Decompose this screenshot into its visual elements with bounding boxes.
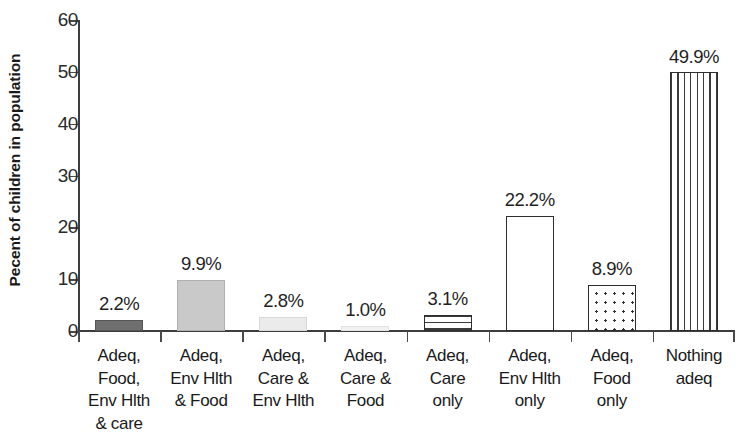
x-axis-label-line: Adeq, <box>242 345 324 368</box>
x-axis-label-nothing-adeq: Nothing adeq <box>653 345 735 390</box>
bar-value-label-8: 49.9% <box>669 46 719 68</box>
x-axis-label-line: Adeq, <box>571 345 653 368</box>
x-axis-label-line: Food, <box>78 368 160 391</box>
bar-slot-3: 2.8% <box>242 20 324 331</box>
x-tick-mark-5 <box>489 331 491 342</box>
x-axis-label-line: adeq <box>653 368 735 391</box>
bar-adeq-env-hlth-and-food[interactable] <box>177 280 225 331</box>
x-axis-label-line: Nothing <box>653 345 735 368</box>
x-axis-label-line: Care & <box>242 368 324 391</box>
bar-adeq-care-and-env-hlth[interactable] <box>259 317 307 332</box>
x-axis-label-adeq-care-only: Adeq, Care only <box>407 345 489 413</box>
y-tick-label-10: 10 <box>44 268 78 290</box>
bar-chart: Pecent of children in population 60 50 4… <box>0 0 740 443</box>
x-axis-label-line: & Food <box>160 390 242 413</box>
x-tick-mark-6 <box>571 331 573 342</box>
bar-value-label-2: 9.9% <box>181 253 221 275</box>
x-axis-label-adeq-care-and-food: Adeq, Care & Food <box>324 345 406 413</box>
x-tick-mark-3 <box>324 331 326 342</box>
x-axis-label-line: Food <box>324 390 406 413</box>
x-axis-label-line: Care & <box>324 368 406 391</box>
bar-slot-8: 49.9% <box>653 20 735 331</box>
y-tick-label-50: 50 <box>44 61 78 83</box>
y-axis-title: Pecent of children in population <box>0 0 30 340</box>
bar-slot-5: 3.1% <box>407 20 489 331</box>
bar-adeq-food-env-hlth-and-care[interactable] <box>95 320 143 331</box>
y-tick-label-20: 20 <box>44 216 78 238</box>
x-tick-mark-2 <box>242 331 244 342</box>
y-axis-title-text: Pecent of children in population <box>6 54 24 287</box>
bar-slot-1: 2.2% <box>78 20 160 331</box>
bar-adeq-care-only[interactable] <box>424 315 472 331</box>
bar-adeq-env-hlth-only[interactable] <box>506 216 554 331</box>
x-tick-mark-4 <box>407 331 409 342</box>
y-tick-label-0: 0 <box>44 320 78 342</box>
x-tick-mark-7 <box>653 331 655 342</box>
x-axis-ticks <box>78 331 735 343</box>
y-tick-label-60: 60 <box>44 9 78 31</box>
bar-value-label-1: 2.2% <box>99 293 139 315</box>
x-axis-label-line: Adeq, <box>78 345 160 368</box>
bar-value-label-5: 3.1% <box>427 288 467 310</box>
plot-area: 2.2% 9.9% 2.8% 1.0% 3.1% 22.2% 8.9% <box>78 20 735 331</box>
y-axis-ticks: 60 50 40 30 20 10 0 <box>30 0 78 443</box>
bar-slot-6: 22.2% <box>489 20 571 331</box>
x-axis-label-line: Env Hlth <box>78 390 160 413</box>
bar-adeq-food-only[interactable] <box>588 285 636 331</box>
x-axis-label-line: only <box>571 390 653 413</box>
x-axis-label-adeq-env-hlth-only: Adeq, Env Hlth only <box>489 345 571 413</box>
x-axis-label-line: only <box>489 390 571 413</box>
bar-value-label-7: 8.9% <box>592 258 632 280</box>
x-axis-label-line: Adeq, <box>489 345 571 368</box>
x-axis-label-line: Care <box>407 368 489 391</box>
bar-slot-2: 9.9% <box>160 20 242 331</box>
bar-nothing-adeq[interactable] <box>670 72 718 331</box>
x-axis-label-line: Env Hlth <box>489 368 571 391</box>
x-tick-mark-0 <box>78 331 80 342</box>
x-axis-label-adeq-food-only: Adeq, Food only <box>571 345 653 413</box>
x-axis-label-adeq-food-env-hlth-and-care: Adeq, Food, Env Hlth & care <box>78 345 160 435</box>
y-tick-label-40: 40 <box>44 113 78 135</box>
x-axis-label-adeq-env-hlth-and-food: Adeq, Env Hlth & Food <box>160 345 242 413</box>
x-axis-label-line: Adeq, <box>407 345 489 368</box>
x-axis-label-adeq-care-and-env-hlth: Adeq, Care & Env Hlth <box>242 345 324 413</box>
bar-value-label-6: 22.2% <box>505 189 555 211</box>
x-axis-label-line: Food <box>571 368 653 391</box>
x-axis-labels: Adeq, Food, Env Hlth & care Adeq, Env Hl… <box>78 345 735 443</box>
x-axis-label-line: only <box>407 390 489 413</box>
x-tick-mark-1 <box>160 331 162 342</box>
x-tick-mark-8 <box>733 331 735 342</box>
bar-value-label-3: 2.8% <box>263 290 303 312</box>
x-axis-label-line: Env Hlth <box>160 368 242 391</box>
bar-value-label-4: 1.0% <box>345 299 385 321</box>
x-axis-label-line: & care <box>78 413 160 436</box>
bar-slot-7: 8.9% <box>571 20 653 331</box>
x-axis-label-line: Env Hlth <box>242 390 324 413</box>
bar-slot-4: 1.0% <box>324 20 406 331</box>
x-axis-label-line: Adeq, <box>324 345 406 368</box>
x-axis-label-line: Adeq, <box>160 345 242 368</box>
y-tick-label-30: 30 <box>44 165 78 187</box>
